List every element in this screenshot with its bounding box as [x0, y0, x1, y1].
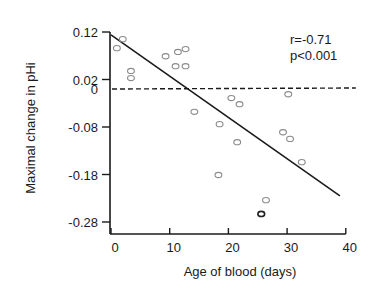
x-tick-label: 10: [166, 240, 180, 255]
scatter-chart: 0.120.020-0.08-0.18-0.28010203040 r=-0.7…: [0, 0, 376, 302]
data-point-marker: [215, 172, 222, 177]
data-point-marker: [280, 130, 287, 135]
stat-r-annotation: r=-0.71: [290, 32, 332, 47]
y-tick-label: -0.28: [68, 215, 98, 230]
data-point-marker: [128, 75, 135, 80]
y-tick-label: -0.18: [68, 168, 98, 183]
data-point-marker: [258, 211, 265, 216]
data-point-marker: [128, 68, 135, 73]
data-point-marker: [263, 198, 270, 203]
data-point-marker: [234, 140, 241, 145]
data-point-marker: [172, 64, 179, 69]
x-tick-label: 30: [284, 240, 298, 255]
data-point-marker: [182, 47, 189, 52]
x-axis-label: Age of blood (days): [184, 264, 297, 279]
y-tick-label: 0.12: [73, 25, 98, 40]
data-point-marker: [113, 46, 120, 51]
data-point-marker: [182, 64, 189, 69]
data-point-marker: [287, 136, 294, 141]
data-point-marker: [236, 102, 243, 107]
data-point-marker: [298, 160, 305, 165]
data-point-marker: [162, 54, 169, 59]
data-point-marker: [285, 92, 292, 97]
dashed-line: [112, 88, 356, 89]
data-point-marker: [175, 49, 182, 54]
data-points: [113, 37, 305, 217]
data-point-marker: [119, 37, 126, 42]
stat-p-annotation: p<0.001: [290, 48, 337, 63]
y-tick-label: 0: [91, 82, 98, 97]
x-tick-label: 40: [343, 240, 357, 255]
y-axis-label: Maximal change in pHi: [23, 62, 38, 194]
data-point-marker: [191, 109, 198, 114]
x-tick-label: 0: [111, 240, 118, 255]
data-point-marker: [216, 122, 223, 127]
chart-canvas: 0.120.020-0.08-0.18-0.28010203040 r=-0.7…: [0, 0, 376, 302]
data-point-marker: [228, 95, 235, 100]
y-tick-label: -0.08: [68, 120, 98, 135]
zero-reference-line: [112, 88, 356, 89]
x-tick-label: 20: [225, 240, 239, 255]
